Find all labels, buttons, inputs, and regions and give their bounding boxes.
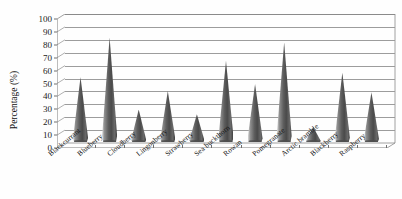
plot-area	[57, 14, 395, 148]
y-tick-label: 90	[43, 27, 52, 36]
bar-cone-shape	[160, 91, 175, 142]
x-tick-mark	[95, 145, 96, 148]
y-tick-label: 100	[39, 15, 53, 24]
bar-cone-shape	[102, 38, 117, 142]
y-tick-label: 50	[43, 79, 52, 88]
chart-container: Percentage (%) 100 90 80 70 60 50 40 30 …	[0, 0, 402, 199]
x-tick-mark	[299, 145, 300, 148]
bar-cone-shape	[248, 84, 263, 142]
y-tick-label: 0	[48, 144, 53, 153]
bar-cone	[211, 61, 240, 142]
y-tick-label: 40	[43, 92, 52, 101]
x-tick-mark	[241, 145, 242, 148]
y-tick-label: 60	[43, 66, 52, 75]
bar-cone	[95, 38, 124, 142]
bar-cone	[66, 77, 95, 142]
y-tick-label: 20	[43, 118, 52, 127]
x-tick-mark	[124, 145, 125, 148]
bar-series	[66, 14, 386, 142]
bar-cone-shape	[364, 92, 379, 142]
bar-cone-shape	[73, 77, 88, 142]
bar-cone	[241, 84, 270, 142]
y-tick-label: 70	[43, 53, 52, 62]
bar-cone	[328, 72, 357, 142]
x-tick-mark	[211, 145, 212, 148]
bar-cone	[270, 42, 299, 142]
x-axis-ticks	[57, 144, 395, 148]
x-tick-mark	[357, 145, 358, 148]
bar-cone-shape	[131, 110, 146, 142]
bar-cone	[153, 91, 182, 142]
x-tick-mark	[153, 145, 154, 148]
bar-cone-shape	[277, 42, 292, 142]
bar-cone	[182, 114, 211, 142]
bar-cone	[299, 127, 328, 142]
bar-cone	[357, 92, 386, 142]
x-tick-mark	[270, 145, 271, 148]
y-tick-label: 30	[43, 105, 52, 114]
y-tick-label: 80	[43, 40, 52, 49]
y-tick-label: 10	[43, 131, 52, 140]
y-axis-tick-labels: 100 90 80 70 60 50 40 30 20 10 0	[0, 0, 55, 199]
bar-cone-shape	[218, 61, 233, 142]
bar-cone-shape	[189, 114, 204, 142]
bar-cone	[124, 110, 153, 142]
x-tick-mark	[328, 145, 329, 148]
bar-cone-shape	[306, 127, 321, 142]
bar-cone-shape	[335, 72, 350, 142]
x-tick-mark	[386, 145, 387, 148]
x-tick-mark	[182, 145, 183, 148]
